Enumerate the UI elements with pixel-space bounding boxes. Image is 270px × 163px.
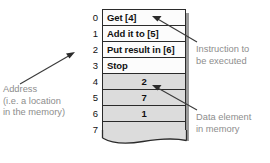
memory-cell-text: Add it to [5] [103, 28, 158, 39]
memory-cell-text: 2 [103, 76, 185, 87]
memory-cell: Add it to [5] [103, 26, 185, 42]
address-label: 2 [84, 41, 98, 57]
memory-cell: 7 [103, 90, 185, 106]
address-label: 0 [84, 9, 98, 25]
memory-cell: 2 [103, 74, 185, 90]
data-annotation: Data element in memory [196, 112, 270, 135]
table-shadow [186, 13, 189, 141]
memory-cell-text: Get [4] [103, 12, 136, 23]
memory-cell: Stop [103, 58, 185, 74]
memory-table: Get [4] Add it to [5] Put result in [6] … [102, 9, 186, 137]
address-column: 0 1 2 3 4 5 6 7 [84, 9, 98, 137]
memory-cell-text: 7 [103, 92, 185, 103]
torn-edge-icon [100, 130, 190, 146]
address-label: 6 [84, 105, 98, 121]
memory-cell-text: 1 [103, 108, 185, 119]
address-label: 3 [84, 57, 98, 73]
memory-cell-text: Stop [103, 60, 128, 71]
instruction-annotation: Instruction to be executed [196, 44, 270, 67]
address-label: 5 [84, 89, 98, 105]
memory-diagram: 0 1 2 3 4 5 6 7 Get [4] Add it to [5] Pu… [0, 0, 270, 163]
address-arrowhead-icon [66, 52, 75, 59]
address-leader-line [20, 54, 72, 84]
address-label: 7 [84, 121, 98, 137]
address-annotation: Address (i.e. a location in the memory) [3, 84, 81, 119]
memory-cell: Put result in [6] [103, 42, 185, 58]
memory-cell-text: Put result in [6] [103, 44, 174, 55]
memory-cell: 1 [103, 106, 185, 122]
address-label: 4 [84, 73, 98, 89]
address-label: 1 [84, 25, 98, 41]
memory-cell: Get [4] [103, 10, 185, 26]
